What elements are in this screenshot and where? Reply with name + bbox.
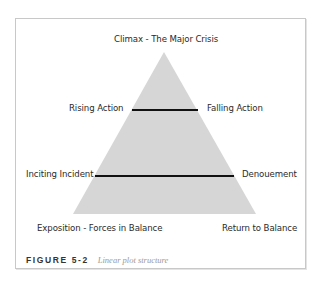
label-rising-action: Rising Action bbox=[69, 103, 123, 113]
figure-caption-text: Linear plot structure bbox=[98, 255, 169, 265]
label-inciting-incident: Inciting Incident bbox=[26, 169, 93, 179]
label-climax: Climax - The Major Crisis bbox=[114, 34, 218, 44]
label-falling-action: Falling Action bbox=[207, 103, 263, 113]
label-denouement: Denouement bbox=[242, 169, 297, 179]
label-return-to-balance: Return to Balance bbox=[222, 223, 297, 233]
pyramid-triangle bbox=[73, 52, 256, 214]
figure-number: FIGURE 5-2 bbox=[26, 255, 89, 265]
label-exposition: Exposition - Forces in Balance bbox=[37, 223, 162, 233]
figure-caption: FIGURE 5-2Linear plot structure bbox=[26, 248, 168, 267]
